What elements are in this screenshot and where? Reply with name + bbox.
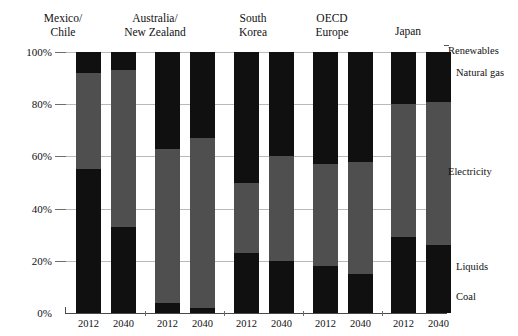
bar-segment-coal: [111, 227, 136, 313]
bar-segment-mid: [313, 164, 338, 266]
bar-south-korea-2040: [269, 52, 294, 313]
y-axis-tick-80: [55, 104, 66, 105]
x-axis: 2012 2040 2012 2040 2012 2040 2012 2040 …: [66, 316, 446, 336]
x-axis-label-1: 2040: [103, 318, 144, 330]
bar-segment-mid: [190, 138, 215, 308]
bar-segment-coal: [348, 274, 373, 313]
x-axis-group-separator: [224, 311, 225, 316]
group-header-mexico-chile: Mexico/ Chile: [18, 12, 108, 39]
group-header-line2: Korea: [213, 26, 293, 40]
legend-item-liquids: Liquids: [456, 261, 488, 273]
x-axis-label-7: 2040: [340, 318, 381, 330]
bar-segment-top: [111, 52, 136, 70]
bar-segment-top: [348, 52, 373, 162]
y-axis-tick-100: [55, 52, 66, 53]
bar-segment-top: [313, 52, 338, 164]
bar-segment-top: [155, 52, 180, 149]
x-axis-group-separator: [303, 311, 304, 316]
group-header-line1: OECD: [290, 12, 374, 26]
group-header-japan: Japan: [372, 25, 444, 39]
bar-segment-mid: [269, 156, 294, 260]
bar-segment-mid: [155, 149, 180, 303]
bar-japan-2012: [391, 52, 416, 313]
legend-label-renewables: Renewables: [448, 45, 499, 56]
bar-segment-mid: [234, 183, 259, 253]
x-axis-group-separator: [145, 311, 146, 316]
x-axis-label-3: 2040: [182, 318, 223, 330]
bar-segment-top: [190, 52, 215, 138]
group-header-line2: New Zealand: [105, 26, 205, 40]
bar-segment-mid: [391, 104, 416, 237]
y-axis: 100% 80% 60% 40% 20% 0%: [8, 52, 66, 313]
bar-segment-coal: [391, 237, 416, 313]
x-axis-left-tick: [65, 307, 66, 314]
group-header-line1: Japan: [372, 25, 444, 39]
y-axis-label-100: 100%: [10, 47, 52, 58]
group-header-line1: Australia/: [105, 12, 205, 26]
legend-leader-line: [444, 45, 449, 46]
legend-item-natural-gas: Natural gas: [456, 67, 504, 79]
group-header-australia-nz: Australia/ New Zealand: [105, 12, 205, 39]
legend-item-coal: Coal: [456, 291, 476, 303]
bar-oecd-europe-2012: [313, 52, 338, 313]
bar-segment-top: [234, 52, 259, 183]
plot-area: [66, 52, 446, 313]
bar-segment-mid: [76, 73, 101, 170]
y-axis-label-60: 60%: [10, 151, 52, 162]
y-axis-label-0: 0%: [10, 308, 52, 319]
y-axis-label-40: 40%: [10, 204, 52, 215]
legend-label-electricity: Electricity: [448, 166, 492, 177]
bar-south-korea-2012: [234, 52, 259, 313]
x-axis-label-5: 2040: [261, 318, 302, 330]
bar-mexico-chile-2012: [76, 52, 101, 313]
y-axis-tick-20: [55, 261, 66, 262]
bar-segment-coal: [313, 266, 338, 313]
bar-segment-top: [391, 52, 416, 104]
y-axis-label-20: 20%: [10, 256, 52, 267]
bar-segment-top: [269, 52, 294, 156]
bar-segment-top: [76, 52, 101, 73]
group-header-line2: Europe: [290, 26, 374, 40]
legend-item-electricity: Electricity: [448, 166, 492, 178]
legend-label-liquids: Liquids: [456, 261, 488, 272]
bar-mexico-chile-2040: [111, 52, 136, 313]
bar-segment-coal: [76, 169, 101, 313]
bar-segment-mid: [348, 162, 373, 274]
bar-australia-nz-2040: [190, 52, 215, 313]
legend-item-renewables: Renewables: [448, 45, 499, 57]
group-header-row: Mexico/ Chile Australia/ New Zealand Sou…: [0, 0, 518, 46]
y-axis-tick-40: [55, 209, 66, 210]
bar-oecd-europe-2040: [348, 52, 373, 313]
group-header-line2: Chile: [18, 26, 108, 40]
legend-label-natural-gas: Natural gas: [456, 67, 504, 78]
y-axis-label-80: 80%: [10, 99, 52, 110]
group-header-line1: Mexico/: [18, 12, 108, 26]
bar-segment-mid: [111, 70, 136, 227]
bar-australia-nz-2012: [155, 52, 180, 313]
legend: Renewables Natural gas Electricity Liqui…: [448, 0, 518, 336]
bar-segment-coal: [234, 253, 259, 313]
bar-segment-coal: [190, 308, 215, 313]
bar-segment-coal: [155, 303, 180, 313]
x-axis-group-separator: [382, 311, 383, 316]
legend-label-coal: Coal: [456, 291, 476, 302]
bar-segment-coal: [269, 261, 294, 313]
stacked-bar-chart: Mexico/ Chile Australia/ New Zealand Sou…: [0, 0, 518, 336]
group-header-oecd-europe: OECD Europe: [290, 12, 374, 39]
y-axis-tick-60: [55, 156, 66, 157]
group-header-line1: South: [213, 12, 293, 26]
group-header-south-korea: South Korea: [213, 12, 293, 39]
x-axis-baseline: [66, 313, 446, 314]
